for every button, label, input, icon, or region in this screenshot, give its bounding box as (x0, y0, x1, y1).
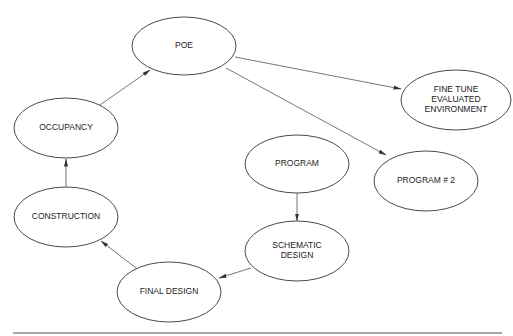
node-label: PROGRAM (275, 158, 319, 168)
node-label: FINAL DESIGN (140, 286, 199, 296)
node-label: OCCUPANCY (39, 122, 93, 132)
node-program-2: PROGRAM # 2 (374, 151, 478, 211)
node-label: CONSTRUCTION (32, 211, 100, 221)
arrow-occupancy-to-poe (100, 70, 150, 105)
node-poe: POE (132, 17, 236, 75)
node-label: PROGRAM # 2 (397, 175, 455, 185)
node-final-design: FINAL DESIGN (117, 262, 221, 322)
arrow-poe-to-fine-tune (235, 57, 401, 89)
node-label: FINE TUNE (434, 84, 479, 94)
node-label: EVALUATED (431, 94, 480, 104)
node-label: SCHEMATIC (272, 240, 321, 250)
node-schematic-design: SCHEMATICDESIGN (245, 221, 349, 281)
node-occupancy: OCCUPANCY (14, 98, 118, 158)
node-label: POE (175, 40, 193, 50)
node-label: DESIGN (281, 250, 314, 260)
arrow-schematic-design-to-final-design (219, 268, 251, 278)
node-construction: CONSTRUCTION (14, 187, 118, 247)
process-diagram: POEOCCUPANCYCONSTRUCTIONFINAL DESIGNSCHE… (0, 0, 513, 336)
edges-layer (66, 57, 401, 278)
node-label: ENVIRONMENT (425, 104, 488, 114)
arrow-final-design-to-construction (101, 241, 136, 268)
node-program: PROGRAM (245, 135, 349, 193)
node-fine-tune: FINE TUNEEVALUATEDENVIRONMENT (401, 70, 511, 130)
